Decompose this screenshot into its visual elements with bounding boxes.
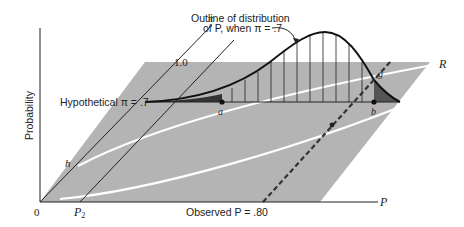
point-intersection bbox=[330, 123, 335, 128]
confidence-diagram: Probability P 0 π 1.0 Hypothetical π = .… bbox=[0, 0, 464, 227]
observed-label: Observed P = .80 bbox=[186, 206, 268, 218]
point-g-label: g bbox=[378, 68, 383, 79]
p2-label: P2 bbox=[73, 205, 85, 220]
origin-label: 0 bbox=[34, 206, 40, 218]
region-r-label: R bbox=[438, 57, 447, 71]
hypothetical-label: Hypothetical π = .7 bbox=[60, 96, 149, 108]
annotation-line2: of P, when π = .7 bbox=[203, 22, 282, 34]
y-axis-label: Probability bbox=[23, 90, 35, 140]
point-a bbox=[219, 99, 224, 104]
x-axis-label: P bbox=[379, 195, 388, 209]
point-b-label: b bbox=[371, 106, 376, 117]
pi-tick-label: 1.0 bbox=[174, 56, 188, 68]
curve-h-label: h bbox=[65, 157, 71, 169]
point-a-label: a bbox=[218, 106, 223, 117]
point-b bbox=[371, 99, 376, 104]
